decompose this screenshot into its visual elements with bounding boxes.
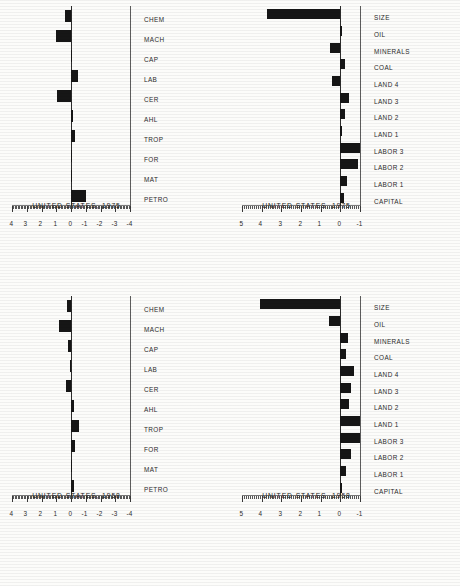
bar	[332, 76, 340, 86]
axis-tick-minor	[124, 496, 125, 500]
category-label: LAND 3	[374, 98, 399, 105]
bar	[340, 93, 348, 103]
bar	[71, 70, 78, 82]
bar	[71, 170, 72, 182]
bar	[71, 400, 74, 412]
axis-tick-minor	[252, 206, 253, 210]
axis-tick-minor	[258, 496, 259, 500]
category-label: LAB	[144, 366, 157, 373]
axis-tick-label: -1	[348, 510, 370, 517]
axis-tick-minor	[246, 496, 247, 500]
bar	[340, 126, 342, 136]
bar	[59, 320, 71, 332]
page-canvas: -4-3-2-101234UNITED STATES, 1958PETROMAT…	[0, 0, 460, 586]
x-axis-title: UNITED STATES, 1975	[263, 202, 352, 209]
axis-tick-label: 4	[250, 220, 272, 227]
axis-tick-minor	[126, 496, 127, 500]
category-label: OIL	[374, 321, 386, 328]
category-label: MINERALS	[374, 338, 410, 345]
bar	[71, 130, 75, 142]
axis-tick-major	[27, 496, 28, 502]
category-label: OIL	[374, 31, 386, 38]
axis-tick-minor	[25, 206, 26, 210]
bar	[56, 30, 71, 42]
category-label: MAT	[144, 176, 158, 183]
bar	[71, 460, 72, 472]
bar	[340, 333, 347, 343]
category-label: FOR	[144, 156, 159, 163]
axis-tick-minor	[15, 496, 16, 500]
category-label: TROP	[144, 136, 163, 143]
category-label: LABOR 3	[374, 438, 404, 445]
category-label: SIZE	[374, 304, 390, 311]
value-axis-line	[130, 6, 131, 206]
category-label: TROP	[144, 426, 163, 433]
axis-tick-minor	[22, 496, 23, 500]
axis-tick-label: 5	[230, 510, 252, 517]
category-label: MINERALS	[374, 48, 410, 55]
axis-tick-minor	[248, 496, 249, 500]
axis-tick-major	[130, 206, 131, 212]
category-label: CHEM	[144, 16, 164, 23]
axis-tick-major	[360, 496, 361, 502]
axis-tick-label: 3	[269, 220, 291, 227]
plot-panel: -4-3-2-101234UNITED STATES, 1958PETROMAT…	[8, 290, 208, 552]
axis-tick-minor	[352, 206, 353, 210]
category-label: LAND 2	[374, 114, 399, 121]
bar	[340, 466, 346, 476]
bar	[70, 360, 71, 372]
axis-tick-minor	[358, 496, 359, 500]
bar	[340, 143, 360, 153]
bar	[71, 440, 75, 452]
bar	[57, 90, 71, 102]
axis-tick-minor	[16, 206, 17, 210]
bar	[340, 59, 344, 69]
category-label: MACH	[144, 36, 164, 43]
axis-tick-minor	[30, 496, 31, 500]
axis-tick-label: 2	[289, 510, 311, 517]
axis-tick-minor	[121, 496, 122, 500]
bar	[340, 416, 360, 426]
axis-tick-minor	[121, 206, 122, 210]
axis-tick-minor	[129, 496, 130, 500]
bar	[340, 176, 346, 186]
chart-panel-endowment-1958: -1012345UNITED STATES, 1958CAPITALLABOR …	[238, 290, 438, 552]
bar	[340, 193, 344, 203]
axis-tick-label: -1	[348, 220, 370, 227]
bar	[340, 109, 345, 119]
x-axis-title: UNITED STATES, 1958	[33, 492, 122, 499]
category-label: FOR	[144, 446, 159, 453]
category-label: LABOR 1	[374, 181, 404, 188]
axis-tick-major	[27, 206, 28, 212]
bar	[340, 366, 354, 376]
axis-tick-minor	[30, 206, 31, 210]
axis-tick-label: 4	[0, 510, 22, 517]
axis-tick-minor	[123, 496, 124, 500]
axis-tick-minor	[356, 496, 357, 500]
axis-tick-label: 4	[250, 510, 272, 517]
category-label: CAP	[144, 56, 158, 63]
axis-tick-minor	[124, 206, 125, 210]
axis-tick-label: 0	[328, 220, 350, 227]
axis-tick-minor	[129, 206, 130, 210]
axis-tick-minor	[16, 496, 17, 500]
axis-tick-minor	[28, 206, 29, 210]
category-label: LAND 4	[374, 371, 399, 378]
axis-tick-minor	[18, 496, 19, 500]
axis-tick-minor	[250, 206, 251, 210]
axis-tick-minor	[248, 206, 249, 210]
bar	[340, 399, 348, 409]
bar	[71, 420, 79, 432]
bar	[67, 300, 71, 312]
category-label: LABOR 3	[374, 148, 404, 155]
axis-tick-minor	[22, 206, 23, 210]
axis-tick-minor	[260, 206, 261, 210]
axis-tick-minor	[244, 496, 245, 500]
axis-tick-minor	[244, 206, 245, 210]
bar	[329, 316, 340, 326]
category-label: LAND 1	[374, 421, 399, 428]
category-label: LABOR 2	[374, 454, 404, 461]
bar	[65, 10, 71, 22]
axis-tick-minor	[254, 206, 255, 210]
axis-tick-minor	[256, 206, 257, 210]
